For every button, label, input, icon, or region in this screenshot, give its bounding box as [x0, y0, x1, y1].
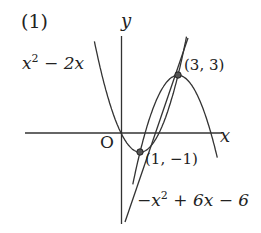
- point-3-3-label: (3, 3): [184, 58, 224, 73]
- upward-parabola-label: x2 − 2x: [22, 53, 84, 72]
- f2-rest: + 6x − 6: [168, 190, 249, 210]
- y-axis-label: y: [121, 12, 131, 30]
- downward-parabola-label: −x2 + 6x − 6: [137, 190, 249, 209]
- point-3-3: [175, 72, 181, 78]
- point-1-minus1: [137, 149, 143, 155]
- f2-exp: 2: [161, 189, 168, 202]
- problem-number-label: (1): [21, 12, 48, 31]
- point-1-minus1-label: (1, −1): [145, 152, 198, 167]
- f1-base: x: [22, 53, 32, 73]
- f2-prefix: −x: [137, 190, 161, 210]
- x-axis-label: x: [220, 127, 230, 145]
- f1-exp: 2: [32, 52, 39, 65]
- origin-label: O: [100, 134, 114, 151]
- f1-rest: − 2x: [39, 53, 84, 73]
